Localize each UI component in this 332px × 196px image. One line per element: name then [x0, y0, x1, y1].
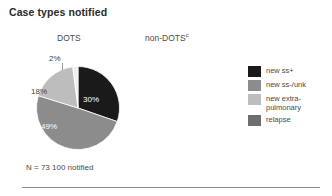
- figure-case-types-notified: Case types notified DOTS non-DOTSc 2% 18…: [0, 0, 332, 196]
- pie-slices: [36, 66, 119, 149]
- pie-caption: N = 73 100 notified: [26, 163, 93, 172]
- legend: new ss+ new ss-/unk new extra-pulmonary …: [248, 66, 332, 129]
- pie-chart-svg: [36, 66, 120, 150]
- legend-label-relapse: relapse: [266, 115, 291, 125]
- column-header-dots-label: DOTS: [57, 33, 81, 43]
- column-header-non-dots-footnote: c: [186, 32, 189, 38]
- legend-label-new-ss-plus: new ss+: [266, 66, 294, 76]
- legend-swatch-icon-relapse: [248, 115, 261, 126]
- page-title: Case types notified: [9, 6, 107, 18]
- legend-swatch-icon-new-extra-pulmonary: [248, 94, 261, 105]
- footer-divider: [22, 187, 320, 188]
- legend-label-new-ss-minus-unk: new ss-/unk: [266, 80, 306, 90]
- pie-leader-line-relapse: [62, 63, 63, 70]
- legend-item-relapse: relapse: [248, 115, 332, 126]
- column-header-non-dots: non-DOTSc: [145, 33, 189, 43]
- legend-item-new-ss-minus-unk: new ss-/unk: [248, 80, 332, 91]
- pie-value-label-relapse: 2%: [49, 54, 61, 63]
- pie-value-label-new-ss-plus: 30%: [83, 95, 99, 104]
- pie-chart: [36, 66, 120, 150]
- column-header-dots: DOTS: [57, 33, 81, 43]
- legend-item-new-extra-pulmonary: new extra-pulmonary: [248, 94, 332, 112]
- legend-item-new-ss-plus: new ss+: [248, 66, 332, 77]
- legend-swatch-icon-new-ss-minus-unk: [248, 80, 261, 91]
- pie-value-label-new-extra-pulmonary: 18%: [31, 87, 47, 96]
- legend-label-new-extra-pulmonary: new extra-pulmonary: [266, 94, 301, 112]
- column-header-non-dots-label: non-DOTS: [145, 33, 186, 43]
- pie-value-label-new-ss-minus-unk: 49%: [41, 122, 57, 131]
- legend-swatch-icon-new-ss-plus: [248, 66, 261, 77]
